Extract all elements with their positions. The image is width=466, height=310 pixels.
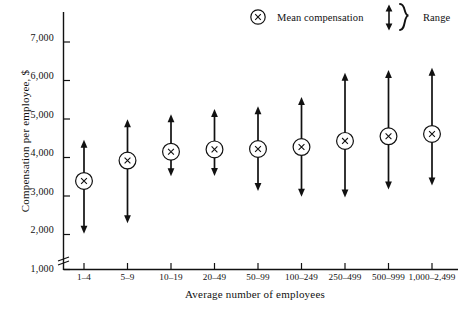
x-axis-ticks	[84, 263, 432, 270]
y-tick-label: 2,000	[10, 224, 54, 235]
y-tick-label: 6,000	[10, 70, 54, 81]
double-headed-arrow-icon	[386, 5, 393, 31]
range-arrow-down	[124, 215, 131, 223]
legend-label-mean: Mean compensation	[277, 12, 364, 23]
range-arrow-up	[298, 97, 305, 105]
data-series-group	[76, 68, 441, 234]
y-tick-label: 1,000	[10, 263, 54, 274]
circled-x-icon	[251, 10, 265, 24]
y-tick-label: 7,000	[10, 32, 54, 43]
range-arrow-up	[429, 68, 436, 76]
data-point-group	[424, 68, 441, 186]
data-point-group	[380, 70, 397, 189]
range-arrow-up	[342, 73, 349, 81]
x-axis-title: Average number of employees	[60, 288, 450, 300]
data-point-group	[337, 73, 354, 198]
legend-label-range: Range	[423, 12, 450, 23]
range-arrow-down	[298, 189, 305, 197]
range-arrow-down	[385, 181, 392, 189]
range-arrow-down	[429, 178, 436, 186]
range-arrow-down	[211, 168, 218, 176]
range-arrow-up	[255, 106, 262, 114]
data-point-group	[206, 109, 223, 176]
range-arrow-up	[124, 119, 131, 127]
range-arrow-down	[255, 183, 262, 191]
y-tick-label: 5,000	[10, 109, 54, 120]
x-tick-label: 1,000–2,499	[402, 272, 462, 282]
chart-figure: Mean compensation Range Compensation per…	[0, 0, 466, 310]
y-tick-label: 4,000	[10, 147, 54, 158]
data-point-group	[250, 106, 267, 191]
data-point-group	[293, 97, 310, 197]
range-arrow-up	[81, 140, 88, 148]
range-arrow-down	[81, 226, 88, 234]
data-point-group	[119, 119, 136, 223]
data-point-group	[163, 114, 180, 176]
data-point-group	[76, 140, 93, 234]
range-arrow-down	[342, 190, 349, 198]
chart-plot-area	[0, 0, 466, 310]
range-arrow-up	[168, 114, 175, 122]
y-axis-ticks	[64, 42, 71, 270]
range-arrow-up	[385, 70, 392, 78]
y-tick-label: 3,000	[10, 186, 54, 197]
curly-brace-icon	[400, 4, 409, 30]
range-arrow-up	[211, 109, 218, 117]
range-arrow-down	[168, 168, 175, 176]
